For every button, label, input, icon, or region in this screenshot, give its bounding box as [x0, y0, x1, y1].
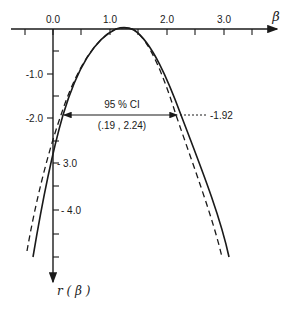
x-tick-label-2: 2.0 — [160, 14, 174, 25]
x-tick-label-3: 3.0 — [217, 14, 231, 25]
likelihood-chart: 0.0 1.0 2.0 3.0 β -1.0 -2.0 - 3.0 - 4.0 … — [0, 0, 291, 313]
y-tick-label-3: - 3.0 — [57, 158, 77, 169]
x-tick-label-0: 0.0 — [46, 14, 60, 25]
x-axis: 0.0 1.0 2.0 3.0 β — [11, 9, 280, 35]
y-tick-label-2: -2.0 — [26, 113, 44, 124]
y-tick-label-4: - 4.0 — [61, 205, 81, 216]
x-axis-label: β — [271, 9, 280, 24]
ci-level-label: -1.92 — [210, 110, 233, 121]
ci-range: (.19 , 2.24) — [98, 120, 146, 131]
x-tick-label-1: 1.0 — [103, 14, 117, 25]
y-axis-label: r ( β ) — [57, 284, 91, 298]
y-tick-label-1: -1.0 — [26, 69, 44, 80]
solid-curve — [33, 28, 229, 257]
ci-title: 95 % CI — [104, 99, 140, 110]
